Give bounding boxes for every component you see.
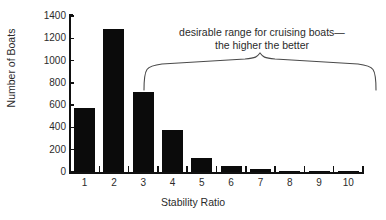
y-axis-title: Number of Boats [5,13,17,123]
x-tick [157,166,159,173]
bar [133,92,154,172]
x-tick-label: 10 [333,177,363,188]
x-tick-label: 9 [304,177,334,188]
bar [103,29,124,172]
x-tick [362,166,364,173]
annotation-line-2: the higher the better [215,39,309,51]
x-tick [245,166,247,173]
bar [221,166,242,172]
y-tick-label: 600 [49,100,66,110]
x-tick [99,166,101,173]
y-tick-label: 1200 [44,33,66,43]
x-tick-label: 6 [216,177,246,188]
y-tick-label: 800 [49,78,66,88]
bar [279,171,300,173]
x-tick-label: 1 [70,177,100,188]
bar [191,158,212,172]
x-tick-label: 5 [187,177,217,188]
x-tick-label: 7 [245,177,275,188]
bar [338,171,359,173]
y-tick-label: 0 [60,167,66,177]
bar [162,130,183,172]
x-tick [274,166,276,173]
x-tick [216,166,218,173]
x-tick-label: 2 [99,177,129,188]
x-axis-title: Stability Ratio [0,196,386,208]
annotation-line-1: desirable range for cruising boats— [179,26,345,38]
annotation-text: desirable range for cruising boats— the … [152,26,372,52]
x-tick [304,166,306,173]
x-tick [128,166,130,173]
x-tick [333,166,335,173]
x-tick-label: 4 [158,177,188,188]
x-tick-label: 8 [275,177,305,188]
bar [250,169,271,172]
bar [74,108,95,172]
bar [309,171,330,173]
y-tick-label: 1000 [44,56,66,66]
x-tick [186,166,188,173]
y-tick-label: 400 [49,122,66,132]
y-tick-label: 200 [49,145,66,155]
x-tick-label: 3 [128,177,158,188]
x-tick [69,166,71,173]
y-tick-label: 1400 [44,11,66,21]
chart-figure: Number of Boats 020040060080010001200140… [0,0,386,220]
